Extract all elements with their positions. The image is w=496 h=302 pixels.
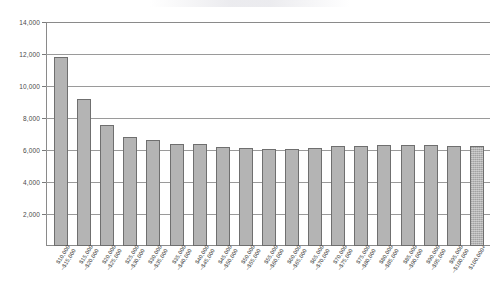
bar xyxy=(146,140,160,246)
bar xyxy=(262,149,276,246)
bar xyxy=(377,145,391,246)
x-axis-labels: $10,000–$15,000$15,000–$20,000$20,000–$2… xyxy=(46,248,496,302)
plot-area xyxy=(46,22,490,246)
bar xyxy=(100,125,114,246)
y-axis-tick-label: 4,000 xyxy=(0,179,40,186)
bar xyxy=(331,146,345,246)
bar xyxy=(354,146,368,246)
bar xyxy=(170,144,184,246)
bar xyxy=(193,144,207,246)
y-axis-tick-label: 14,000 xyxy=(0,19,40,26)
y-axis-tick-label: 10,000 xyxy=(0,83,40,90)
bar-chart: 2,0004,0006,0008,00010,00012,00014,000 $… xyxy=(0,0,496,302)
bar xyxy=(470,146,484,246)
bar xyxy=(401,145,415,246)
bar xyxy=(239,148,253,246)
y-axis-tick-label: 12,000 xyxy=(0,51,40,58)
bar xyxy=(54,57,68,246)
y-axis-tick-label: 2,000 xyxy=(0,211,40,218)
bar xyxy=(123,137,137,246)
bar xyxy=(447,146,461,246)
bar xyxy=(285,149,299,246)
top-edge-artifact xyxy=(150,0,350,7)
bar xyxy=(424,145,438,246)
bar xyxy=(308,148,322,246)
bar xyxy=(77,99,91,246)
bars-group xyxy=(46,22,490,246)
y-axis-tick-label: 8,000 xyxy=(0,115,40,122)
y-axis-tick-label: 6,000 xyxy=(0,147,40,154)
bar xyxy=(216,147,230,246)
